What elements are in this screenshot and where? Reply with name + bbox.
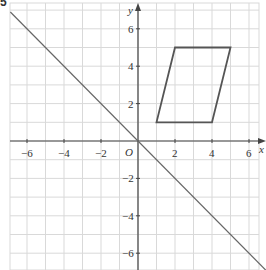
- y-tick-label: −6: [122, 247, 134, 259]
- x-tick-label: 4: [209, 147, 215, 159]
- grid-border: [10, 3, 259, 270]
- coordinate-grid-plot: −6−4−2246642−2−4−6xyO: [0, 0, 266, 270]
- x-tick-label: −2: [95, 147, 107, 159]
- tick-labels: −6−4−2246642−2−4−6xyO: [21, 4, 264, 259]
- y-axis-label: y: [127, 4, 133, 16]
- x-tick-label: −4: [58, 147, 70, 159]
- y-axis-arrow-icon: [135, 3, 141, 11]
- y-tick-label: 6: [128, 23, 134, 35]
- y-tick-label: 2: [128, 98, 134, 110]
- y-tick-label: −2: [122, 172, 134, 184]
- axes: [10, 3, 266, 270]
- x-axis-label: x: [258, 143, 264, 155]
- y-tick-label: −4: [122, 210, 134, 222]
- x-tick-label: 2: [172, 147, 178, 159]
- origin-label: O: [125, 146, 133, 158]
- x-tick-label: 6: [246, 147, 252, 159]
- x-tick-label: −6: [21, 147, 33, 159]
- grid-lines: [10, 3, 259, 270]
- y-tick-label: 4: [128, 60, 134, 72]
